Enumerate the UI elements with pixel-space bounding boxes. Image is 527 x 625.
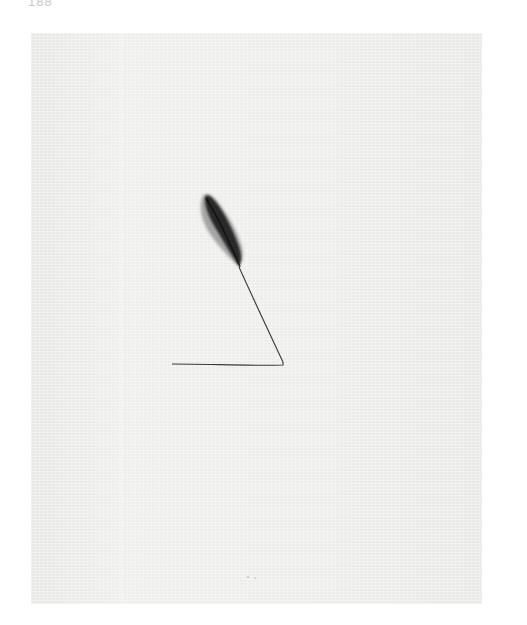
horizontal-line [172, 362, 283, 365]
page: 188 [0, 0, 527, 625]
feather-line-drawing [0, 0, 527, 625]
faint-mark [247, 576, 249, 578]
diagonal-line [239, 267, 283, 362]
faint-mark [254, 577, 255, 578]
